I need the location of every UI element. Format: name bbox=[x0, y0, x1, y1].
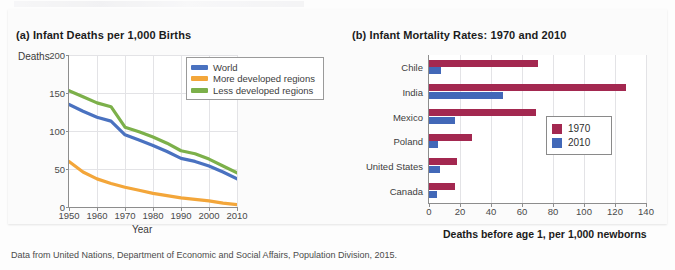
panel-b-category-label: India bbox=[402, 87, 423, 98]
panel-b-bar-india-2010 bbox=[429, 92, 503, 99]
panel-a-x-tick-label: 2000 bbox=[198, 210, 219, 221]
panel-b-plot-area: 020406080100120140ChileIndiaMexicoPoland… bbox=[428, 55, 646, 204]
panel-a-x-tick-label: 2010 bbox=[226, 210, 247, 221]
panel-b-gridline-vertical bbox=[460, 55, 461, 203]
panel-a-y-tick-label: 150 bbox=[49, 88, 65, 99]
panel-b-bar-chile-2010 bbox=[429, 67, 441, 74]
panel-b-category-label: Mexico bbox=[393, 111, 423, 122]
panel-a-legend-item: World bbox=[191, 62, 319, 73]
panel-b-gridline-vertical bbox=[615, 55, 616, 203]
panel-b-category-label: United States bbox=[366, 161, 423, 172]
panel-a-x-axis-label: Year bbox=[132, 224, 152, 235]
panel-a-legend-item: Less developed regions bbox=[191, 85, 319, 96]
panel-a-y-axis-label: Deaths bbox=[18, 51, 50, 62]
panel-b-gridline-vertical bbox=[646, 55, 647, 203]
panel-a-title: (a) Infant Deaths per 1,000 Births bbox=[16, 29, 191, 41]
panel-a-legend-item: More developed regions bbox=[191, 73, 319, 84]
panel-b-category-label: Canada bbox=[390, 185, 423, 196]
panel-b-legend-label: 2010 bbox=[568, 137, 590, 148]
panel-b-bar-united-states-1970 bbox=[429, 158, 457, 165]
panel-b-category-label: Poland bbox=[393, 136, 423, 147]
panel-b-legend: 19702010 bbox=[546, 116, 612, 155]
panel-b-legend-swatch bbox=[552, 138, 562, 148]
panel-a-legend-label: More developed regions bbox=[213, 73, 315, 84]
panel-a-line-less-developed-regions bbox=[69, 91, 237, 173]
panel-b-x-tick-label: 40 bbox=[486, 206, 497, 217]
panel-a-y-tickmark bbox=[66, 207, 70, 208]
panel-b-bar-mexico-1970 bbox=[429, 109, 536, 116]
panel-a-legend-swatch bbox=[191, 65, 208, 70]
panel-b-bar-india-1970 bbox=[429, 84, 626, 91]
panel-b-bar-poland-2010 bbox=[429, 141, 438, 148]
panel-b-bar-mexico-2010 bbox=[429, 117, 455, 124]
figure-source-caption: Data from United Nations, Department of … bbox=[11, 250, 397, 260]
panel-b-bar-united-states-2010 bbox=[429, 166, 440, 173]
panel-a-x-tick-label: 1990 bbox=[170, 210, 191, 221]
panel-b-legend-item: 1970 bbox=[552, 122, 606, 135]
figure-sheet: (a) Infant Deaths per 1,000 Births (b) I… bbox=[0, 0, 675, 270]
panel-b-gridline-vertical bbox=[491, 55, 492, 203]
panel-b-x-tick-label: 0 bbox=[426, 206, 431, 217]
panel-b-gridline-vertical bbox=[522, 55, 523, 203]
panel-b-legend-label: 1970 bbox=[568, 123, 590, 134]
panel-b-bar-poland-1970 bbox=[429, 134, 472, 141]
panel-a-y-tick-label: 100 bbox=[49, 126, 65, 137]
panel-a-y-tick-label: 50 bbox=[54, 164, 65, 175]
panel-a-legend-label: World bbox=[213, 62, 238, 73]
panel-b-x-tick-label: 140 bbox=[638, 206, 654, 217]
panel-b-category-label: Chile bbox=[401, 62, 423, 73]
panel-b-x-tick-label: 100 bbox=[576, 206, 592, 217]
panel-b-legend-item: 2010 bbox=[552, 136, 606, 149]
cropped-text-sliver bbox=[14, 1, 304, 7]
panel-a-legend-label: Less developed regions bbox=[213, 85, 313, 96]
panel-a-x-tick-label: 1970 bbox=[114, 210, 135, 221]
panel-b-bar-canada-1970 bbox=[429, 183, 455, 190]
panel-a-x-tick-label: 1960 bbox=[86, 210, 107, 221]
panel-b-x-tick-label: 120 bbox=[607, 206, 623, 217]
panel-a-x-tick-label: 1980 bbox=[142, 210, 163, 221]
panel-a-line-world bbox=[69, 104, 237, 178]
panel-a-y-tick-label: 0 bbox=[60, 202, 65, 213]
panel-b-bar-chile-1970 bbox=[429, 60, 538, 67]
panel-b-x-tick-label: 80 bbox=[548, 206, 559, 217]
panel-a-y-tick-label: 200 bbox=[49, 50, 65, 61]
panel-b-bar-canada-2010 bbox=[429, 191, 437, 198]
panel-b-x-tick-label: 60 bbox=[517, 206, 528, 217]
panel-b-x-tick-label: 20 bbox=[455, 206, 466, 217]
panel-b-legend-swatch bbox=[552, 124, 562, 134]
panel-a-legend: WorldMore developed regionsLess develope… bbox=[186, 57, 324, 100]
panel-a-legend-swatch bbox=[191, 76, 208, 81]
panel-a-legend-swatch bbox=[191, 88, 208, 93]
panel-b-title: (b) Infant Mortality Rates: 1970 and 201… bbox=[352, 29, 566, 41]
panel-b-x-axis-label: Deaths before age 1, per 1,000 newborns bbox=[443, 228, 647, 240]
